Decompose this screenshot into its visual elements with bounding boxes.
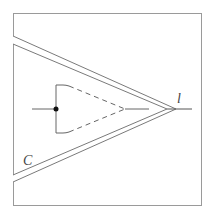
wedge-upper-outer-line — [13, 36, 176, 109]
wedge-upper-inner-line — [13, 44, 167, 109]
inner-bottom-corner — [56, 132, 69, 133]
boundary-label-c: C — [23, 153, 33, 168]
diagram-canvas: l C — [0, 0, 213, 215]
inner-lower-dashed — [69, 109, 125, 132]
junction-dot-icon — [54, 107, 59, 112]
inner-contour — [32, 85, 149, 133]
inner-upper-dashed — [69, 86, 125, 109]
wedge-lower-outer-line — [13, 109, 176, 182]
inner-top-corner — [56, 85, 69, 86]
wedge-lower-inner-line — [13, 109, 167, 175]
apex-label-l: l — [177, 91, 181, 106]
